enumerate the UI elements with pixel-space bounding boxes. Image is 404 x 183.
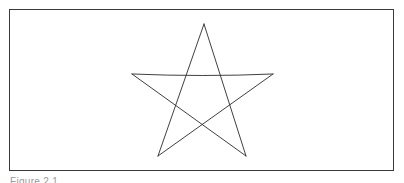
figure-caption: Figure 2.1 <box>10 176 58 183</box>
star-stroke-bottom-right-to-top <box>204 24 246 156</box>
star-stroke-bottom-left-to-right <box>158 74 273 156</box>
star-stroke-left-to-bottom-right <box>132 74 246 156</box>
pentagram-star-drawing <box>0 0 404 183</box>
star-stroke-right-to-left <box>132 74 273 76</box>
star-stroke-top-to-bottom-left <box>158 24 204 156</box>
